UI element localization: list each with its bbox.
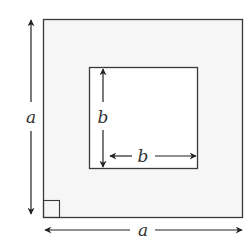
label-outer-horizontal: a xyxy=(138,220,148,240)
square-diagram: a a b b xyxy=(0,0,246,249)
outer-vertical-dimension: a xyxy=(26,20,36,214)
label-inner-horizontal: b xyxy=(138,146,149,166)
label-inner-vertical: b xyxy=(98,107,109,127)
outer-horizontal-dimension: a xyxy=(45,220,242,240)
label-outer-vertical: a xyxy=(26,107,36,127)
